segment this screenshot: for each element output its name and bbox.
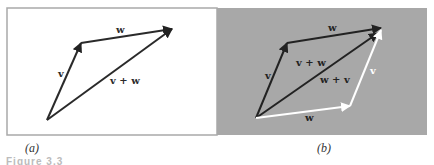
- vector-diagram: vwv + wvwv + ww + vvw: [0, 0, 434, 165]
- vector-label: v: [369, 65, 377, 76]
- panel-b-label: (b): [317, 141, 331, 156]
- vector-label: w: [304, 112, 314, 123]
- figure-caption: Figure 3.3: [6, 156, 63, 165]
- vector-label: w + v: [319, 74, 351, 85]
- vector-label: w: [115, 24, 125, 35]
- vector-label: v + w: [295, 57, 326, 68]
- vector-label: v + w: [109, 75, 140, 86]
- vector-label: v: [264, 70, 272, 81]
- panel-a-label: (a): [25, 141, 39, 156]
- vector-label: w: [327, 22, 337, 33]
- vector-label: v: [57, 68, 65, 79]
- vector-addition-figure: vwv + wvwv + ww + vvw (a) (b) Figure 3.3: [0, 0, 434, 165]
